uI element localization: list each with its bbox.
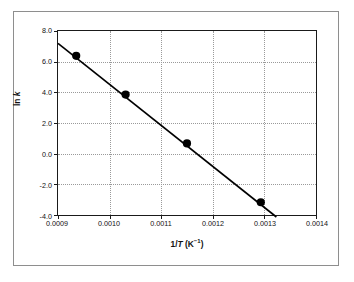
x-axis-title-unit-close: ) [201,239,204,249]
x-tick-label: 0.0013 [254,219,276,228]
y-axis-title: ln k [12,92,22,106]
x-tick-label: 0.0014 [306,219,328,228]
x-axis-title-exponent: −1 [194,238,201,244]
trendline [58,43,276,217]
x-axis-title-unit-open: (K [183,239,194,249]
y-tick-label: 6.0 [42,57,52,66]
x-axis-tick-labels: 0.0009 0.0010 0.0011 0.0012 0.0013 0.001… [57,219,317,233]
x-tick-label: 0.0009 [46,219,68,228]
plot-area [57,30,317,216]
chart-data-layer [58,31,318,217]
x-tick-label: 0.0010 [98,219,120,228]
x-tick-label: 0.0011 [150,219,171,228]
y-axis-title-prefix: ln [12,96,22,106]
data-point [257,198,265,206]
y-axis-title-variable: k [12,92,22,97]
y-axis-tick-labels: 8.0 6.0 4.0 2.0 0.0 -2.0 -4.0 [25,30,52,216]
arrhenius-plot-figure: ln k 8.0 6.0 4.0 2.0 0.0 -2.0 -4.0 [0,0,354,282]
data-point [183,139,191,147]
y-tick-label: 4.0 [42,87,52,96]
x-tick-label: 0.0012 [202,219,224,228]
y-tick-label: 0.0 [42,150,52,159]
data-point [72,52,80,60]
data-point-markers [72,52,265,207]
data-point [122,90,130,98]
y-tick-label: -2.0 [40,180,52,189]
y-tick-label: 2.0 [42,119,52,128]
x-axis-title: 1/T (K−1) [57,238,317,249]
x-axis-title-prefix: 1/ [171,239,178,249]
y-tick-label: 8.0 [42,26,52,35]
